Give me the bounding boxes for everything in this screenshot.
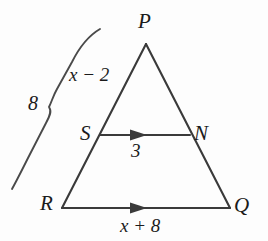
parallel-arrow-marker-sn: [130, 130, 147, 141]
vertex-label-N: N: [194, 123, 208, 144]
measure-label-sn: 3: [131, 141, 141, 160]
parallel-arrow-marker-rq: [130, 203, 147, 214]
brace-sr: [12, 29, 100, 189]
vertex-label-S: S: [80, 123, 91, 144]
measure-label-sr: 8: [28, 93, 38, 113]
measure-label-rq: x + 8: [120, 216, 160, 235]
measure-label-ps: x − 2: [69, 65, 109, 84]
geometry-figure: P S N R Q 8 x − 2 3 x + 8: [0, 0, 268, 241]
segment-PQ: [146, 44, 230, 208]
vertex-label-R: R: [40, 193, 53, 214]
vertex-label-Q: Q: [234, 195, 249, 216]
vertex-label-P: P: [138, 11, 151, 32]
